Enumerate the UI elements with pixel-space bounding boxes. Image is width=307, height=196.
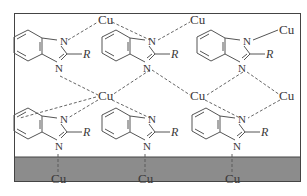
cu-atom: Cu [138,171,154,186]
n-label: N [55,62,63,74]
n-label: N [143,62,151,74]
n-label: N [60,35,68,47]
r-label: R [82,125,91,139]
diagram-root: N N N N N N N N N N N N R R R R R R Cu C… [0,0,307,196]
n-label: N [233,140,241,152]
n-label: N [148,35,156,47]
cu-atom: Cu [98,88,114,103]
r-label: R [82,47,91,61]
r-label: R [265,47,274,61]
n-label: N [243,35,251,47]
cu-atom: Cu [279,22,295,37]
r-label: R [170,125,179,139]
n-label: N [148,113,156,125]
cu-atom: Cu [190,88,206,103]
cu-atom: Cu [279,88,295,103]
cu-atom: Cu [225,171,241,186]
cu-atom: Cu [190,12,206,27]
n-label: N [143,140,151,152]
n-label: N [238,113,246,125]
n-label: N [60,113,68,125]
n-label: N [55,140,63,152]
r-label: R [170,47,179,61]
r-label: R [260,125,269,139]
cu-atom: Cu [98,12,114,27]
benzimidazole-cu-diagram: N N N N N N N N N N N N R R R R R R Cu C… [0,0,307,196]
diagram-frame [15,14,301,182]
cu-atom: Cu [51,171,67,186]
n-label: N [238,62,246,74]
